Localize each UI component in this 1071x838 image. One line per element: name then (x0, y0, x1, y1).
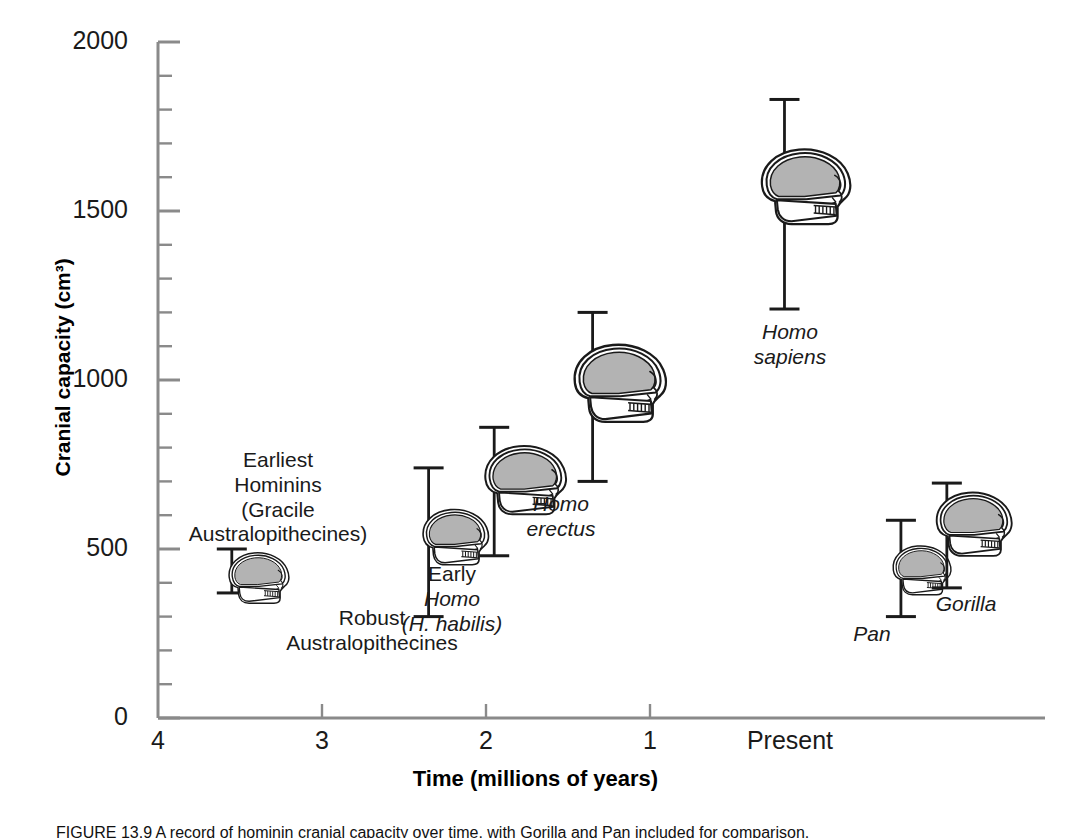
chart-plot-area (0, 0, 1071, 838)
series-label-line: Earliest (173, 448, 383, 473)
skull-icon (423, 510, 488, 565)
series-label-line: erectus (491, 517, 631, 542)
series-label-3: EarlyHomo(H. habilis) (387, 562, 517, 636)
series-label-1: EarliestHominins(GracileAustralopithecin… (173, 448, 383, 547)
x-axis-ticks (322, 704, 650, 718)
series-label-line: (Gracile (173, 498, 383, 523)
series-label-line: sapiens (720, 345, 860, 370)
x-tick-label-present: Present (730, 726, 850, 756)
figure-caption: FIGURE 13.9 A record of hominin cranial … (56, 824, 1066, 838)
series-label-line: Hominins (173, 473, 383, 498)
series-label-7: Gorilla (906, 592, 1026, 617)
skull-icon (762, 149, 850, 224)
series-label-4: Homoerectus (491, 492, 631, 542)
series-label-line: Early (387, 562, 517, 587)
x-tick-label-1: 1 (590, 726, 710, 756)
y-tick-label-1500: 1500 (48, 195, 128, 225)
skull-icon (575, 345, 666, 422)
series-label-line: Australopithecines) (173, 522, 383, 547)
x-tick-label-3: 3 (262, 726, 382, 756)
data-point-group (575, 312, 666, 481)
data-point-group (762, 99, 850, 309)
data-point-group (217, 549, 289, 603)
series-label-line: Gorilla (906, 592, 1026, 617)
y-axis-ticks (158, 42, 180, 718)
series-label-line: Pan (822, 622, 922, 647)
y-axis-title: Cranial capacity (cm³) (51, 242, 76, 492)
series-label-line: Homo (720, 320, 860, 345)
skull-icon (229, 553, 289, 603)
series-label-line: Homo (491, 492, 631, 517)
series-label-5: Homosapiens (720, 320, 860, 370)
skull-icon (937, 493, 1012, 556)
x-axis-title: Time (millions of years) (0, 766, 1071, 792)
figure-cranial-capacity: 0500100015002000 4321Present Cranial cap… (0, 0, 1071, 838)
x-tick-label-4: 4 (98, 726, 218, 756)
series-label-line: Homo (387, 587, 517, 612)
series-label-6: Pan (822, 622, 922, 647)
series-label-line: (H. habilis) (387, 612, 517, 637)
y-tick-label-2000: 2000 (48, 26, 128, 56)
x-tick-label-2: 2 (426, 726, 546, 756)
y-tick-label-500: 500 (48, 533, 128, 563)
